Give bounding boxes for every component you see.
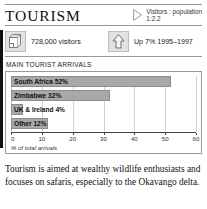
chart-bar-label: UK & Ireland 4% — [14, 105, 65, 114]
chart-bars: South Africa 52%Zimbabwe 32%UK & Ireland… — [11, 76, 196, 132]
page-title: TOURISM — [5, 7, 81, 24]
stats-row: 728,000 visitors Up 7% 1995–1997 — [5, 31, 202, 57]
chart-bar-label: South Africa 52% — [14, 77, 68, 86]
chart-axis-tick-label: 20 — [69, 135, 76, 142]
left-edge-rule — [0, 30, 3, 148]
chart-bar-row: Zimbabwe 32% — [11, 90, 196, 101]
chart-x-axis-label: % of total arrivals — [11, 145, 196, 151]
chart-bar-label: Other 12% — [14, 119, 47, 128]
tourism-panel: TOURISM Visitors : population 1:2.2 — [5, 4, 202, 154]
chart-axis-tick-label: 10 — [38, 135, 45, 142]
chart-axis-tick-label: 60 — [193, 135, 200, 142]
suitcase-icon — [5, 31, 26, 52]
chart-axis-tick-label: 0 — [11, 135, 14, 142]
stat-growth: Up 7% 1995–1997 — [108, 31, 193, 52]
chart-bar-row: South Africa 52% — [11, 76, 196, 87]
ratio-value: 1:2.2 — [146, 15, 160, 22]
chart-heading: MAIN TOURIST ARRIVALS — [6, 61, 202, 68]
panel-header: TOURISM Visitors : population 1:2.2 — [5, 7, 202, 26]
stat-growth-text: Up 7% 1995–1997 — [134, 38, 193, 46]
body-paragraph: Tourism is aimed at wealthy wildlife ent… — [5, 163, 202, 188]
up-arrow-icon — [108, 31, 129, 52]
visitors-ratio: Visitors : population 1:2.2 — [133, 8, 202, 24]
chart-bar-row: Other 12% — [11, 118, 196, 129]
chart-gridline — [196, 76, 197, 132]
chart-axis-tick-label: 30 — [100, 135, 107, 142]
chart-container: South Africa 52%Zimbabwe 32%UK & Ireland… — [5, 71, 202, 154]
chart-axis-tick-label: 40 — [131, 135, 138, 142]
triangle-right-icon — [133, 9, 142, 21]
chart-axis-tick-label: 50 — [162, 135, 169, 142]
chart-bar-label: Zimbabwe 32% — [14, 91, 61, 100]
stat-visitors: 728,000 visitors — [5, 31, 108, 52]
stat-visitors-text: 728,000 visitors — [31, 38, 81, 46]
ratio-label: Visitors : population — [146, 8, 202, 15]
top-divider — [5, 4, 202, 5]
chart-x-axis: 0102030405060 — [11, 132, 196, 145]
visitors-ratio-text: Visitors : population 1:2.2 — [146, 8, 202, 23]
chart-plot-area: South Africa 52%Zimbabwe 32%UK & Ireland… — [11, 76, 196, 132]
chart-bar-row: UK & Ireland 4% — [11, 104, 196, 115]
